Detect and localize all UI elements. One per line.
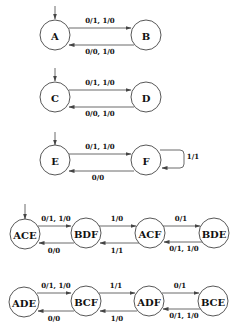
- edge-label-f-to-e: 0/0: [92, 173, 104, 182]
- edge-label-acf-to-bdf: 1/1: [111, 246, 123, 255]
- state-label-bce: BCE: [201, 297, 226, 308]
- edge-label-adf-to-bce: 0/1: [174, 281, 186, 290]
- state-label-d: D: [142, 93, 151, 104]
- state-label-adf: ADF: [136, 297, 161, 308]
- edge-label-bdf-to-acf: 1/0: [111, 214, 123, 223]
- machine-5: 0/1, 1/0 0/0 1/1 1/0 0/1 0/1, 1/0 ADE BC…: [9, 281, 228, 323]
- edge-label-a-to-b: 0/1, 1/0: [85, 16, 115, 25]
- state-label-bcf: BCF: [74, 297, 98, 308]
- machine-1: 0/1, 1/0 0/0, 1/0 A B: [40, 6, 161, 56]
- state-machine-diagram: 0/1, 1/0 0/0, 1/0 A B 0/1, 1/0 0/0, 1/0 …: [0, 0, 239, 335]
- state-label-ace: ACE: [12, 230, 37, 241]
- state-label-b: B: [142, 31, 150, 42]
- machine-4: 0/1, 1/0 0/0 1/0 1/1 0/1 0/1, 1/0 ACE BD…: [10, 204, 229, 255]
- machine-3: 0/1, 1/0 0/0 1/1 E F: [40, 132, 199, 182]
- edge-label-f-self: 1/1: [187, 152, 199, 161]
- state-label-bdf: BDF: [74, 229, 98, 240]
- edge-label-bcf-to-adf: 1/1: [110, 281, 122, 290]
- edge-f-self-loop: [160, 150, 184, 168]
- edge-label-ace-to-bdf: 0/1, 1/0: [41, 214, 71, 223]
- machine-2: 0/1, 1/0 0/0, 1/0 C D: [40, 68, 161, 118]
- edge-label-b-to-a: 0/0, 1/0: [85, 47, 115, 56]
- state-label-c: C: [51, 93, 59, 104]
- edge-label-e-to-f: 0/1, 1/0: [85, 142, 115, 151]
- state-label-f: F: [142, 156, 149, 167]
- state-label-acf: ACF: [138, 229, 162, 240]
- edge-label-adf-to-bcf: 1/0: [111, 314, 123, 323]
- edge-label-bce-to-adf: 0/1, 1/0: [169, 311, 199, 320]
- edge-label-c-to-d: 0/1, 1/0: [85, 78, 115, 87]
- edge-label-ade-to-bcf: 0/1, 1/0: [41, 281, 71, 290]
- state-label-a: A: [50, 31, 59, 42]
- edge-label-d-to-c: 0/0, 1/0: [85, 109, 115, 118]
- edge-label-bdf-to-ace: 0/0: [48, 246, 60, 255]
- state-label-e: E: [51, 156, 59, 167]
- state-label-ade: ADE: [11, 298, 36, 309]
- edge-label-acf-to-bde: 0/1: [175, 214, 187, 223]
- edge-label-bde-to-acf: 0/1, 1/0: [169, 244, 199, 253]
- state-label-bde: BDE: [202, 229, 227, 240]
- edge-label-bcf-to-ade: 0/0: [48, 314, 60, 323]
